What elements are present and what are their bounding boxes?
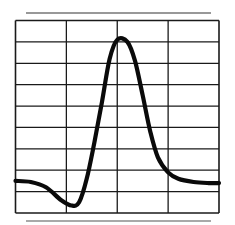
chart-grid (16, 21, 220, 214)
waveform-chart (0, 0, 235, 225)
